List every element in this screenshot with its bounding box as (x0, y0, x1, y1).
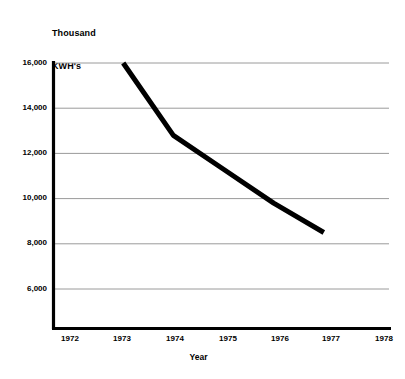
x-tick-label-1977: 1977 (311, 334, 351, 343)
series-polyline (123, 63, 324, 233)
y-tick-label-14000: 14,000 (3, 103, 47, 112)
x-axis-title-text: Year (190, 352, 208, 362)
x-tick-label-1972: 1972 (50, 334, 90, 343)
plot-area: 16,000 14,000 12,000 10,000 8,000 6,000 … (0, 0, 405, 379)
x-tick-label-1976: 1976 (260, 334, 300, 343)
x-tick-label-1973: 1973 (102, 334, 142, 343)
data-series-line (123, 63, 324, 233)
x-tick-label-1978: 1978 (364, 334, 404, 343)
x-axis-title: Year (0, 352, 405, 362)
chart-canvas (0, 0, 405, 379)
x-tick-label-1975: 1975 (208, 334, 248, 343)
y-tick-label-12000: 12,000 (3, 148, 47, 157)
x-tick-label-1974: 1974 (155, 334, 195, 343)
y-tick-label-6000: 6,000 (3, 284, 47, 293)
gridlines-group (53, 63, 389, 289)
y-tick-label-10000: 10,000 (3, 193, 47, 202)
y-tick-label-8000: 8,000 (3, 238, 47, 247)
y-tick-label-16000: 16,000 (3, 58, 47, 67)
chart-screenshot: Thousand KWH's 16,000 14,000 12,000 10,0… (0, 0, 405, 379)
